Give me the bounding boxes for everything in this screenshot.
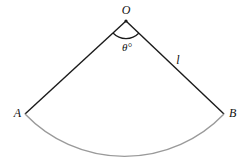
sector-diagram: O θ° l A B bbox=[0, 0, 248, 158]
angle-mark bbox=[113, 33, 139, 39]
radius-line-ob bbox=[126, 21, 224, 114]
center-point bbox=[124, 19, 127, 22]
radius-line-oa bbox=[25, 21, 126, 114]
label-b: B bbox=[229, 106, 237, 120]
label-l: l bbox=[176, 53, 180, 67]
label-a: A bbox=[13, 106, 22, 120]
label-theta: θ° bbox=[122, 41, 132, 53]
arc-ab bbox=[25, 114, 224, 156]
label-o: O bbox=[122, 3, 131, 17]
